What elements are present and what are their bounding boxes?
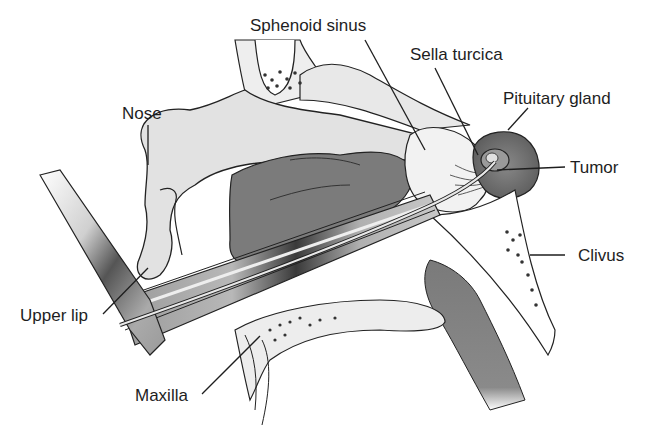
label-tumor: Tumor (570, 159, 619, 176)
anatomy-diagram: Sphenoid sinus Sella turcica Pituitary g… (0, 0, 653, 443)
tumor-shape (481, 149, 509, 171)
label-maxilla: Maxilla (135, 387, 188, 404)
label-sphenoid-sinus: Sphenoid sinus (250, 17, 366, 34)
diagram-artwork (0, 0, 653, 443)
label-upper-lip: Upper lip (20, 307, 88, 324)
maxilla-bone (235, 300, 445, 425)
label-sella-turcica: Sella turcica (410, 46, 503, 63)
label-nose: Nose (122, 105, 162, 122)
label-clivus: Clivus (578, 247, 624, 264)
label-pituitary-gland: Pituitary gland (503, 90, 611, 107)
